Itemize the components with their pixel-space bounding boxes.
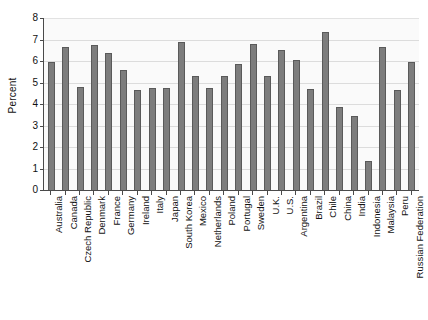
x-category-label-text: Australia — [54, 196, 64, 233]
x-tick-mark — [411, 191, 412, 195]
x-category-label: Indonesia — [372, 196, 382, 237]
y-tick-label: 1 — [32, 164, 38, 174]
x-tick-mark — [151, 191, 152, 195]
x-category-label-text: Mexico — [198, 196, 208, 226]
x-category-label: Ireland — [141, 196, 151, 225]
x-category-label: Argentina — [299, 196, 309, 237]
x-tick-mark — [79, 191, 80, 195]
x-category-label: Mexico — [198, 196, 208, 226]
x-category-label-text: Peru — [400, 196, 410, 216]
x-category-label: France — [112, 196, 122, 226]
x-tick-mark — [223, 191, 224, 195]
x-category-label: China — [343, 196, 353, 221]
x-category-label: Brazil — [314, 196, 324, 220]
x-category-label-text: China — [343, 196, 353, 221]
x-category-label: U.K. — [271, 196, 281, 214]
y-tick-label: 7 — [32, 35, 38, 45]
x-category-label: U.S. — [285, 196, 295, 214]
x-category-label: Australia — [54, 196, 64, 233]
x-category-label-text: South Korea — [184, 196, 194, 249]
x-category-label: Portugal — [242, 196, 252, 231]
x-category-label-text: Japan — [170, 196, 180, 222]
x-category-label: Poland — [227, 196, 237, 226]
bar — [379, 47, 386, 190]
x-tick-mark — [310, 191, 311, 195]
bar — [365, 161, 372, 190]
bar — [192, 76, 199, 190]
x-tick-mark — [65, 191, 66, 195]
x-category-label-text: Denmark — [97, 196, 107, 235]
y-axis-title: Percent — [4, 0, 22, 190]
x-tick-mark — [194, 191, 195, 195]
x-axis-tick-marks — [43, 191, 418, 195]
x-category-label-text: Argentina — [299, 196, 309, 237]
y-tick-label: 3 — [32, 121, 38, 131]
y-tick-label: 4 — [32, 99, 38, 109]
x-category-label: Italy — [155, 196, 165, 213]
x-tick-mark — [295, 191, 296, 195]
x-category-label: Peru — [400, 196, 410, 216]
x-axis-category-labels: AustraliaCanadaCzech RepublicDenmarkFran… — [43, 196, 418, 316]
x-tick-mark — [368, 191, 369, 195]
x-category-label: Russian Federation — [415, 196, 425, 278]
x-tick-mark — [209, 191, 210, 195]
x-category-label-text: Sweden — [256, 196, 266, 230]
x-tick-mark — [353, 191, 354, 195]
bar — [149, 88, 156, 190]
y-tick-label: 0 — [32, 185, 38, 195]
x-category-label-text: Portugal — [242, 196, 252, 231]
x-tick-mark — [382, 191, 383, 195]
bar — [163, 88, 170, 190]
bars-layer — [44, 18, 419, 190]
bar — [134, 90, 141, 190]
x-category-label-text: Brazil — [314, 196, 324, 220]
x-tick-mark — [180, 191, 181, 195]
x-category-label: Denmark — [97, 196, 107, 235]
x-category-label: Japan — [170, 196, 180, 222]
x-tick-mark — [166, 191, 167, 195]
bar — [336, 107, 343, 190]
x-tick-mark — [281, 191, 282, 195]
bar — [307, 89, 314, 190]
y-tick-label: 5 — [32, 78, 38, 88]
bar — [120, 70, 127, 190]
x-tick-mark — [93, 191, 94, 195]
x-tick-mark — [122, 191, 123, 195]
x-category-label-text: Malaysia — [386, 196, 396, 234]
x-category-label-text: Poland — [227, 196, 237, 226]
x-category-label: Malaysia — [386, 196, 396, 234]
bar — [264, 76, 271, 190]
x-category-label: Sweden — [256, 196, 266, 230]
x-category-label: South Korea — [184, 196, 194, 249]
bar — [48, 62, 55, 190]
x-category-label-text: Netherlands — [213, 196, 223, 247]
bar — [408, 62, 415, 190]
x-tick-mark — [137, 191, 138, 195]
x-tick-mark — [324, 191, 325, 195]
x-tick-mark — [339, 191, 340, 195]
x-category-label-text: France — [112, 196, 122, 226]
x-category-label: Netherlands — [213, 196, 223, 247]
x-category-label-text: Czech Republic — [83, 196, 93, 263]
x-category-label: Germany — [126, 196, 136, 235]
x-category-label: Czech Republic — [83, 196, 93, 263]
bar — [178, 42, 185, 190]
x-category-label-text: Chile — [328, 196, 338, 218]
x-tick-mark — [108, 191, 109, 195]
x-category-label-text: Indonesia — [372, 196, 382, 237]
x-category-label-text: Russian Federation — [415, 196, 425, 278]
x-category-label-text: U.K. — [271, 196, 281, 214]
bar — [278, 50, 285, 190]
y-tick-label: 8 — [32, 13, 38, 23]
x-tick-mark — [238, 191, 239, 195]
bar — [91, 45, 98, 190]
bar — [105, 53, 112, 190]
x-category-label-text: U.S. — [285, 196, 295, 214]
x-category-label: India — [357, 196, 367, 217]
x-tick-mark — [50, 191, 51, 195]
bar — [221, 76, 228, 190]
plot-area — [43, 18, 419, 191]
y-tick-label: 2 — [32, 142, 38, 152]
bar — [322, 32, 329, 190]
bar — [235, 64, 242, 190]
